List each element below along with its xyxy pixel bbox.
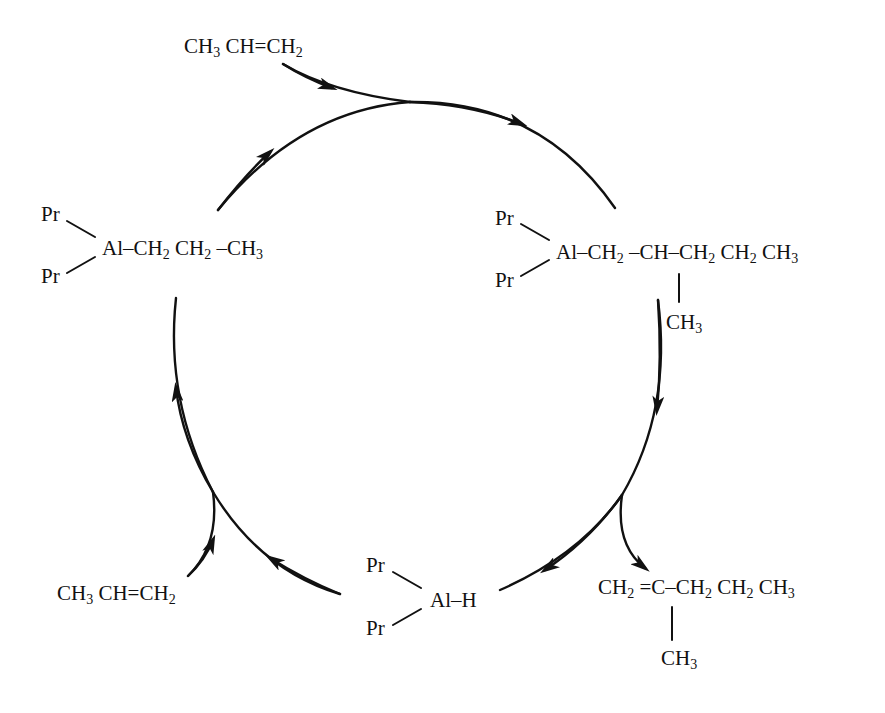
arrowhead-top-right [410,102,522,124]
bond-pr2-alh [393,609,421,625]
formula-part: CH [715,240,749,264]
subscript: 2 [169,592,176,607]
subscript: 2 [750,251,757,266]
pr-ligand-1: Pr [41,204,60,225]
propene-top-feed-arrow [283,64,410,102]
bond-pr2-al-2 [521,260,549,276]
subscript: 3 [690,657,697,672]
formula-part: CH [666,310,695,334]
arc-left [174,298,213,492]
arrowhead-lower-left [270,558,340,594]
pr-ligand-2: Pr [41,266,60,287]
bond-pr1-al [67,221,95,237]
pr-ligand-6: Pr [366,618,385,639]
pr-ligand-5: Pr [366,555,385,576]
subscript: 2 [617,251,624,266]
formula-part: CH [753,575,787,599]
formula-part: CH [598,575,627,599]
subscript: 3 [788,586,795,601]
formula-part: CH [184,34,213,58]
propene-top-label: CH3 CH=CH2 [184,36,303,57]
formula-part: –CH–CH [624,240,709,264]
propene-bottom-feed-arrow [188,492,214,576]
arc-left-top [218,102,410,210]
subscript: 3 [791,251,798,266]
subscript: 2 [163,247,170,262]
formula-part: Al–CH [556,240,617,264]
formula-part: CH [170,236,204,260]
formula-part: =C–CH [634,575,705,599]
formula-part: CH [712,575,746,599]
bond-pr1-alh [393,572,421,588]
formula-part: CH [661,646,690,670]
bond-pr1-al-2 [521,224,549,240]
arrowhead-right [657,300,660,410]
formula-part: CH=CH [98,581,168,605]
formula-part: CH [757,240,791,264]
formula-part: CH=CH [225,34,295,58]
formula-part: Al–CH [102,236,163,260]
subscript: 3 [256,247,263,262]
subscript: 2 [705,586,712,601]
product-release-arrow [621,495,645,568]
arc-right [622,300,661,495]
bond-pr2-al [67,257,95,273]
tripropylaluminum-label: Al–CH2 CH2 –CH3 [102,238,263,259]
dipropylaluminum-hydride-label: Al–H [430,590,477,611]
subscript: 3 [695,321,702,336]
dimer-product-label: CH2 =C–CH2 CH2 CH3 [598,577,795,598]
propene-bottom-label: CH3 CH=CH2 [57,583,176,604]
insertion-product-label: Al–CH2 –CH–CH2 CH2 CH3 [556,242,798,263]
reaction-cycle-diagram: CH3 CH=CH2 Pr Pr Al–CH2 CH2 –CH3 Pr Pr A… [0,0,885,713]
arc-top-right [410,102,615,208]
insertion-product-methyl: CH3 [666,312,702,333]
formula-part: –CH [211,236,256,260]
dimer-product-methyl: CH3 [661,648,697,669]
arc-lower-left [213,492,340,594]
formula-part: CH [57,581,86,605]
pr-ligand-4: Pr [495,270,514,291]
pr-ligand-3: Pr [495,208,514,229]
subscript: 2 [296,45,303,60]
